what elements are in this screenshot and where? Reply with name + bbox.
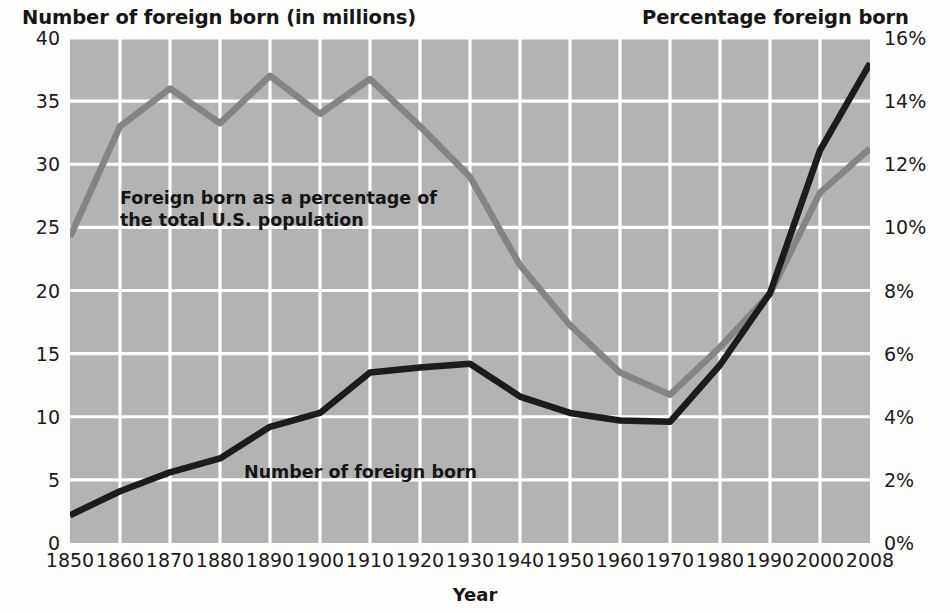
right-axis-tick-label: 16% xyxy=(884,29,926,48)
chart-figure: Number of foreign born (in millions) Per… xyxy=(0,0,950,613)
left-axis-tick-label: 25 xyxy=(36,218,60,237)
left-axis-tick-label: 35 xyxy=(36,92,60,111)
annotation-number-series: Number of foreign born xyxy=(244,461,477,483)
right-axis-title: Percentage foreign born xyxy=(642,6,909,29)
right-axis-tick-label: 10% xyxy=(884,218,926,237)
right-axis-tick-label: 12% xyxy=(884,155,926,174)
left-axis-tick-label: 10 xyxy=(36,408,60,427)
right-axis-tick-label: 14% xyxy=(884,92,926,111)
right-axis-tick-label: 2% xyxy=(884,471,914,490)
left-axis-tick-label: 40 xyxy=(36,29,60,48)
x-axis-tick-label: 2008 xyxy=(840,551,900,570)
annotation-percentage-series: Foreign born as a percentage of the tota… xyxy=(120,187,437,232)
right-axis-tick-label: 6% xyxy=(884,345,914,364)
left-axis-tick-label: 5 xyxy=(48,471,60,490)
right-axis-tick-label: 4% xyxy=(884,408,914,427)
left-axis-tick-label: 20 xyxy=(36,282,60,301)
left-axis-tick-label: 15 xyxy=(36,345,60,364)
right-axis-tick-label: 8% xyxy=(884,282,914,301)
x-axis-title: Year xyxy=(0,584,950,605)
left-axis-title: Number of foreign born (in millions) xyxy=(22,6,416,29)
left-axis-tick-label: 30 xyxy=(36,155,60,174)
